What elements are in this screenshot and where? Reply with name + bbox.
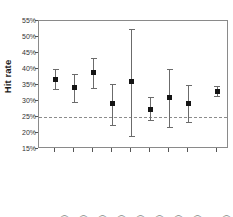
data-point-marker[interactable] <box>148 107 153 112</box>
error-bar-cap-upper <box>214 86 220 87</box>
data-point-marker[interactable] <box>167 95 172 100</box>
error-bar-cap-lower <box>148 120 154 121</box>
data-point-marker[interactable] <box>129 79 134 84</box>
x-axis-tick-label: All studies (2549) <box>220 215 232 217</box>
data-point-group[interactable] <box>188 21 189 147</box>
data-point-marker[interactable] <box>186 101 191 106</box>
plot-inner <box>39 21 227 147</box>
y-axis-tick-label: 15% <box>14 145 36 152</box>
error-bar-cap-upper <box>110 84 116 85</box>
y-axis-tick-label: 25% <box>14 113 36 120</box>
error-bar-cap-lower <box>110 125 116 126</box>
hit-rate-forest-plot: Hit rate 55%50%45%40%35%30%25%20%15% BS … <box>0 0 233 217</box>
data-point-marker[interactable] <box>91 70 96 75</box>
x-axis-tick-label: Utrecht (232) <box>191 215 203 217</box>
error-bar-cap-upper <box>72 74 78 75</box>
error-bar-cap-upper <box>53 69 59 70</box>
x-axis-tick-label: PRL (355) <box>77 215 89 217</box>
error-bar-cap-lower <box>167 127 173 128</box>
error-bar-cap-upper <box>186 85 192 86</box>
x-axis-tick-label: Edinburgh (289) <box>96 215 108 217</box>
data-point-group[interactable] <box>93 21 94 147</box>
data-point-group[interactable] <box>112 21 113 147</box>
error-bar-cap-upper <box>129 29 135 30</box>
y-axis-tick-label: 35% <box>14 81 36 88</box>
data-point-group[interactable] <box>169 21 170 147</box>
data-point-group[interactable] <box>131 21 132 147</box>
x-axis-tick-label: BS MA (762) <box>58 215 70 217</box>
data-point-marker[interactable] <box>215 89 220 94</box>
plot-area <box>38 20 228 148</box>
data-point-marker[interactable] <box>53 77 58 82</box>
data-point-group[interactable] <box>55 21 56 147</box>
error-bar-cap-lower <box>129 136 135 137</box>
x-axis-tick-label: Cornell (25) <box>134 215 146 217</box>
error-bar-cap-lower <box>186 122 192 123</box>
y-axis-tick-labels: 55%50%45%40%35%30%25%20%15% <box>12 0 36 217</box>
error-bar-cap-lower <box>72 102 78 103</box>
reference-line <box>39 117 227 118</box>
error-bar-cap-lower <box>53 89 59 90</box>
y-axis-tick-label: 30% <box>14 97 36 104</box>
x-axis-tick-label: Gothenburg (90) <box>172 215 184 217</box>
error-bar-cap-lower <box>91 88 97 89</box>
data-point-group[interactable] <box>217 21 218 147</box>
data-point-marker[interactable] <box>72 85 77 90</box>
x-axis-tick-label: Rhine Center (590) <box>153 215 165 217</box>
data-point-group[interactable] <box>74 21 75 147</box>
x-axis-tick-labels: BS MA (762)PRL (355)Edinburgh (289)Amste… <box>38 152 228 217</box>
error-bar-cap-upper <box>91 58 97 59</box>
data-point-group[interactable] <box>150 21 151 147</box>
y-axis-tick-label: 40% <box>14 65 36 72</box>
y-axis-tick-label: 20% <box>14 129 36 136</box>
error-bar-cap-upper <box>167 69 173 70</box>
error-bar-cap-upper <box>148 97 154 98</box>
y-axis-tick-label: 55% <box>14 17 36 24</box>
error-bar-cap-lower <box>214 96 220 97</box>
data-point-marker[interactable] <box>110 101 115 106</box>
y-axis-tick-label: 50% <box>14 33 36 40</box>
x-axis-tick-label: Amsterdam (164) <box>115 215 127 217</box>
y-axis-tick-label: 45% <box>14 49 36 56</box>
